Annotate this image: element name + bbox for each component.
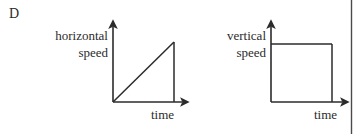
chart2-y-axis-label-line2: speed — [160, 46, 266, 59]
chart2-x-axis-label: time — [314, 108, 337, 121]
chart2-y-axis-label-line1: vertical — [160, 29, 266, 42]
chart1-x-axis-label: time — [151, 108, 174, 121]
chart1-y-axis-label-line2: speed — [0, 46, 108, 59]
chart1-y-axis-label-line1: horizontal — [0, 29, 108, 42]
chart-vertical-speed — [271, 27, 342, 102]
speed-vs-time-figure — [0, 0, 360, 134]
option-panel: D horizontal speed time vertical speed t… — [0, 0, 360, 134]
option-letter: D — [9, 7, 19, 21]
